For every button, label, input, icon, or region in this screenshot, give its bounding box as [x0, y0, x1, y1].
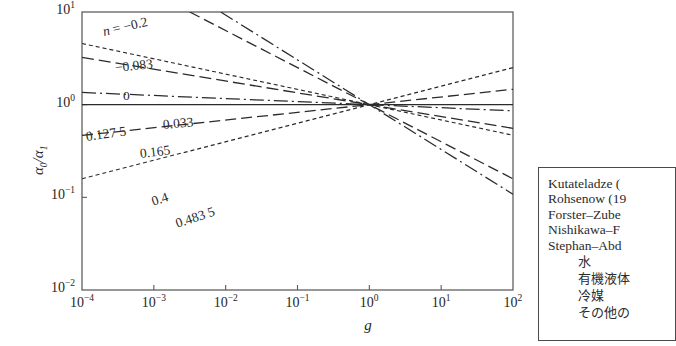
x-tick-label: 10−3: [142, 296, 166, 310]
curve-line: [82, 68, 513, 179]
curve-label-value: 0.165: [139, 142, 171, 161]
x-tick-label: 100: [360, 296, 379, 310]
legend-content: Kutateladze (Rohsenow (19Forster–ZubeNis…: [548, 176, 675, 321]
curve-line: [190, 12, 513, 179]
legend-entry-jp: 水: [548, 253, 675, 270]
curve-label: 0.033: [162, 114, 194, 133]
y-tick-label: 10−2: [51, 281, 75, 295]
legend-entry-jp: 有機液体: [548, 270, 675, 287]
legend-box: Kutateladze (Rohsenow (19Forster–ZubeNis…: [538, 167, 676, 341]
curve-line: [82, 89, 513, 135]
x-tick-label: 10−1: [286, 296, 310, 310]
legend-entry-jp: 冷媒: [548, 287, 675, 304]
x-tick-label: 10−4: [70, 296, 94, 310]
curve-line: [82, 92, 513, 110]
x-tick-label: 102: [504, 296, 523, 310]
x-tick-label: 10−2: [214, 296, 238, 310]
y-axis-title-text: α0/α1: [30, 146, 46, 175]
legend-entry: Stephan–Abd: [548, 238, 675, 253]
curve-label-value: 0: [123, 88, 130, 103]
curve-line: [221, 12, 513, 194]
legend-entry: Forster–Zube: [548, 207, 675, 222]
legend-entry: Rohsenow (19: [548, 191, 675, 206]
curve-label: 0: [123, 88, 130, 104]
curve-group: [82, 12, 513, 194]
legend-entry: Kutateladze (: [548, 176, 675, 191]
y-tick-label: 10−1: [51, 188, 75, 202]
x-tick-label: 101: [432, 296, 451, 310]
y-axis-title: α0/α1: [30, 146, 47, 175]
legend-entry: Nishikawa–F: [548, 222, 675, 237]
y-tick-label: 101: [56, 3, 75, 17]
y-tick-label: 100: [56, 96, 75, 110]
legend-entry-jp: その他の: [548, 304, 675, 321]
x-axis-title: g: [364, 317, 372, 334]
curve-label-value: −0.083: [114, 56, 153, 75]
curve-label-value: 0.033: [162, 114, 194, 132]
